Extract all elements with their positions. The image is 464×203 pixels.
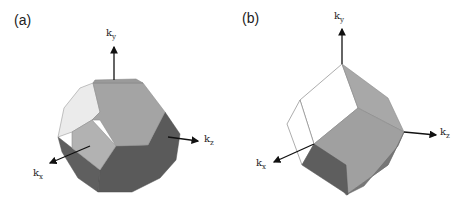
kz-label: kz [204, 133, 214, 147]
panel-a-truncated-octahedron: (a) ky kx kz [0, 0, 232, 203]
kx-label-sub: x [39, 173, 43, 181]
kz-label-sub: z [210, 139, 214, 147]
kz-axis-arrow [404, 132, 436, 135]
kz-label: kz [440, 126, 450, 140]
ky-label-sub: y [112, 33, 116, 41]
panel-label-a: (a) [14, 12, 31, 28]
panel-label-b: (b) [242, 10, 259, 26]
face-top-square [93, 79, 143, 83]
kz-label-sub: z [446, 132, 450, 140]
kx-label: kx [33, 167, 43, 181]
ky-label: ky [106, 27, 116, 41]
kx-label: kx [256, 157, 266, 171]
ky-label-sub: y [340, 16, 344, 24]
panel-b-rhombic-dodecahedron: (b) ky kx kz [232, 0, 464, 203]
kx-label-sub: x [262, 163, 266, 171]
rhombic-dodecahedron-diagram [232, 0, 464, 203]
ky-label: ky [334, 10, 344, 24]
